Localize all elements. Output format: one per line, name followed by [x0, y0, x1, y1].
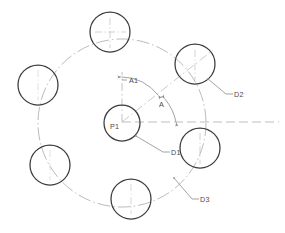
leader-d1-group: D1 [136, 136, 181, 157]
center-point-label-group: P1 [110, 122, 119, 131]
hole-centermarks-group [38, 18, 200, 214]
technical-drawing-svg: A1 A P1 D1 D2 D3 [0, 0, 285, 233]
angle-dimension-a1-group: A1 [122, 76, 158, 95]
holes-group [18, 12, 220, 219]
cad-drawing-canvas: A1 A P1 D1 D2 D3 [0, 0, 285, 233]
centerlines-group [122, 50, 279, 122]
angle-a-label: A [159, 100, 164, 109]
angle-a1-label: A1 [129, 76, 138, 85]
leader-d2-group: D2 [208, 79, 244, 99]
leader-d2-label: D2 [234, 90, 244, 99]
angle-a1-arc [122, 77, 158, 95]
leader-d1-label: D1 [171, 148, 181, 157]
leader-d1-line [136, 136, 170, 152]
leader-d3-line [174, 178, 199, 199]
leader-d2-line [208, 79, 233, 94]
leader-d3-group: D3 [174, 178, 210, 204]
center-point-label: P1 [110, 122, 119, 131]
angle-a-arc [165, 99, 176, 122]
angle-dimension-a-group: A [159, 99, 176, 122]
leader-d3-label: D3 [200, 195, 210, 204]
